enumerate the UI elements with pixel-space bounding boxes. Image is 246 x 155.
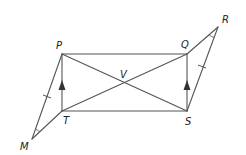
label-R: R (222, 14, 229, 25)
label-V: V (120, 69, 128, 80)
label-M: M (20, 141, 29, 152)
segment-RS (187, 27, 218, 111)
geometry-diagram: P Q R V T S M (0, 0, 246, 155)
parallel-arrow-icon (184, 80, 191, 90)
parallel-arrow-icon (59, 80, 66, 90)
label-T: T (63, 115, 70, 126)
congruent-tick-RS (198, 65, 206, 68)
angle-arc-R (209, 35, 215, 38)
label-P: P (56, 40, 63, 51)
label-Q: Q (181, 39, 189, 50)
angle-arc-M (36, 129, 41, 132)
label-S: S (185, 116, 192, 127)
